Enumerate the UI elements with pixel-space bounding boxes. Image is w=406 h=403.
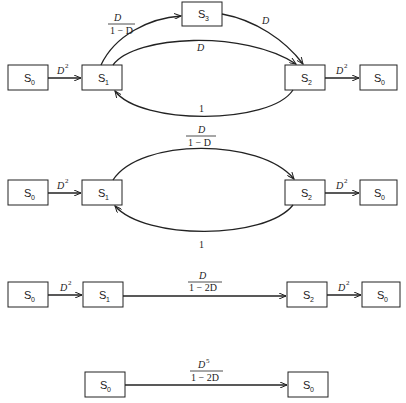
node-s0-output: S 0 [360, 65, 397, 90]
node-s0-output: S 0 [362, 282, 400, 307]
svg-text:1: 1 [199, 239, 204, 250]
node-s2: S 2 [287, 282, 327, 307]
stage-2: S 0 S 1 S 2 S 0 D 2 D 1 − D [8, 124, 397, 250]
svg-text:1 − 2D: 1 − 2D [191, 372, 219, 383]
gain-s2-s1: 1 [199, 103, 204, 114]
edge-s1-s2 [113, 40, 296, 65]
svg-text:1: 1 [105, 79, 109, 86]
node-s0-output: S 0 [288, 372, 328, 397]
svg-text:0: 0 [310, 386, 314, 393]
svg-text:1: 1 [199, 103, 204, 114]
svg-text:2: 2 [308, 79, 312, 86]
svg-text:2: 2 [346, 279, 350, 287]
edge-s1-s3 [101, 16, 181, 65]
gain-s1-s2: D 1 − 2D [188, 270, 222, 293]
svg-text:D: D [198, 270, 207, 281]
svg-text:1: 1 [105, 194, 109, 201]
gain-s1-s2: D 1 − D [186, 124, 216, 148]
svg-text:2: 2 [308, 194, 312, 201]
gain-s2-s1: 1 [199, 239, 204, 250]
gain-s2-s0: D 2 [335, 62, 348, 76]
stage-1: S 0 S 1 S 3 S 2 S 0 [8, 2, 397, 116]
svg-text:0: 0 [381, 194, 385, 201]
signal-flow-diagram: S 0 S 1 S 3 S 2 S 0 [0, 0, 406, 403]
gain-s0-s1: D 2 [56, 177, 69, 191]
svg-text:0: 0 [384, 296, 388, 303]
svg-text:2: 2 [68, 279, 72, 287]
svg-text:D: D [196, 42, 205, 53]
svg-text:D: D [56, 65, 65, 76]
svg-text:0: 0 [31, 194, 35, 201]
node-s0-input: S 0 [85, 372, 125, 397]
svg-text:1 − 2D: 1 − 2D [189, 282, 217, 293]
svg-text:2: 2 [344, 177, 348, 185]
gain-s3-s2: D [261, 15, 270, 26]
stage-4: S 0 S 0 D 5 1 − 2D [85, 357, 328, 397]
svg-text:1 − D: 1 − D [110, 25, 133, 36]
svg-text:2: 2 [65, 62, 69, 70]
gain-s0-s1: D 2 [56, 62, 69, 76]
svg-text:2: 2 [310, 296, 314, 303]
svg-text:D: D [113, 12, 122, 23]
gain-s0-s0: D 5 1 − 2D [190, 357, 223, 383]
node-s3: S 3 [182, 2, 222, 26]
node-s2: S 2 [285, 65, 325, 90]
node-s0-output: S 0 [360, 180, 397, 205]
node-s1: S 1 [82, 180, 122, 205]
svg-text:0: 0 [31, 79, 35, 86]
node-s2: S 2 [285, 180, 325, 205]
svg-text:1: 1 [106, 296, 110, 303]
edge-s2-s1-feedback [115, 90, 293, 116]
svg-text:1 − D: 1 − D [188, 137, 211, 148]
svg-text:D: D [261, 15, 270, 26]
gain-s2-s0: D 2 [335, 177, 348, 191]
svg-text:D: D [56, 180, 65, 191]
svg-text:D: D [197, 124, 206, 135]
gain-s0-s1: D 2 [59, 279, 72, 293]
gain-s1-s2: D [196, 42, 205, 53]
node-s1: S 1 [82, 65, 122, 90]
svg-text:3: 3 [205, 15, 209, 22]
edge-s2-s1-feedback [115, 205, 293, 231]
svg-text:2: 2 [344, 62, 348, 70]
svg-text:0: 0 [381, 79, 385, 86]
node-s0-input: S 0 [8, 282, 48, 307]
svg-text:0: 0 [107, 386, 111, 393]
svg-text:D: D [335, 65, 344, 76]
svg-text:2: 2 [65, 177, 69, 185]
node-s0-input: S 0 [8, 65, 48, 90]
node-s1: S 1 [83, 282, 123, 307]
node-s0-input: S 0 [8, 180, 48, 205]
svg-text:D: D [197, 359, 206, 370]
gain-s2-s0: D 2 [337, 279, 350, 293]
gain-s1-s3: D 1 − D [108, 12, 135, 36]
svg-text:D: D [59, 282, 68, 293]
svg-text:D: D [337, 282, 346, 293]
svg-text:D: D [335, 180, 344, 191]
edge-s1-s2 [113, 148, 294, 180]
stage-3: S 0 S 1 S 2 S 0 D 2 D 1 − 2D [8, 270, 400, 307]
svg-text:5: 5 [206, 357, 210, 365]
svg-text:0: 0 [31, 296, 35, 303]
